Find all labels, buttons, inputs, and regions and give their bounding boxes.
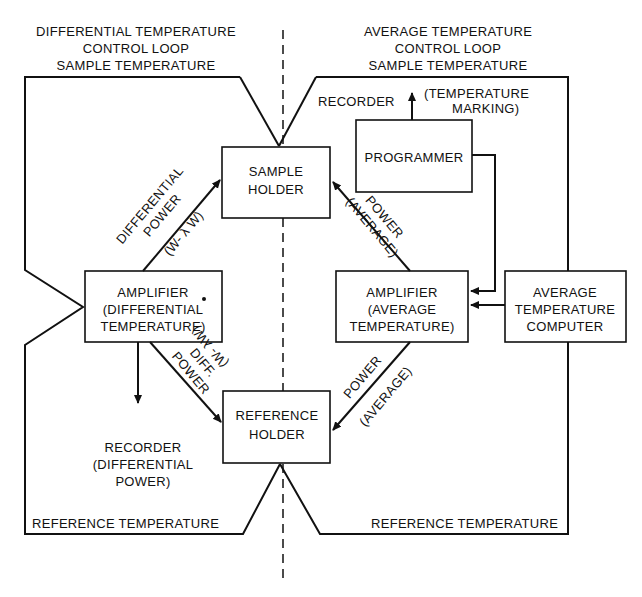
heading-average-loop: AVERAGE TEMPERATURE CONTROL LOOP SAMPLE …: [364, 24, 532, 73]
svg-text:TEMPERATURE): TEMPERATURE): [349, 319, 454, 334]
recorder-top-label: RECORDER: [318, 94, 395, 109]
svg-text:CONTROL LOOP: CONTROL LOOP: [395, 41, 501, 56]
svg-text:COMPUTER: COMPUTER: [527, 319, 604, 334]
sample-holder-box: SAMPLE HOLDER: [222, 147, 330, 218]
svg-text:SAMPLE: SAMPLE: [249, 164, 304, 179]
svg-text:PROGRAMMER: PROGRAMMER: [364, 150, 463, 165]
amplifier-average-box: AMPLIFIER (AVERAGE TEMPERATURE): [336, 271, 468, 342]
svg-text:(TEMPERATURE: (TEMPERATURE: [424, 86, 529, 101]
power-average-upper-label: POWER (AVERAGE): [343, 184, 414, 260]
differential-power-upper-label: DIFFERENTIAL POWER (W- λ W): [113, 163, 220, 275]
svg-text:AMPLIFIER: AMPLIFIER: [366, 285, 437, 300]
svg-text:POWER): POWER): [115, 474, 170, 489]
svg-text:SAMPLE TEMPERATURE: SAMPLE TEMPERATURE: [57, 58, 216, 73]
heading-differential-loop: DIFFERENTIAL TEMPERATURE CONTROL LOOP SA…: [36, 24, 236, 73]
svg-text:RECORDER: RECORDER: [105, 440, 182, 455]
svg-text:(DIFFERENTIAL: (DIFFERENTIAL: [93, 457, 194, 472]
svg-text:SAMPLE TEMPERATURE: SAMPLE TEMPERATURE: [369, 58, 528, 73]
reference-holder-box: REFERENCE HOLDER: [223, 391, 330, 463]
svg-text:(AVERAGE: (AVERAGE: [368, 302, 437, 317]
reference-temperature-left-label: REFERENCE TEMPERATURE: [32, 516, 219, 531]
right-loop-apex-top: [279, 77, 316, 146]
left-loop-apex-top: [240, 77, 279, 146]
svg-text:DIFFERENTIAL TEMPERATURE: DIFFERENTIAL TEMPERATURE: [36, 24, 236, 39]
arrow-programmer-to-amp-avg: [471, 155, 495, 291]
svg-text:HOLDER: HOLDER: [249, 427, 305, 442]
svg-text:TEMPERATURE: TEMPERATURE: [515, 302, 616, 317]
svg-text:(DIFFERENTIAL: (DIFFERENTIAL: [103, 302, 204, 317]
svg-text:CONTROL LOOP: CONTROL LOOP: [83, 41, 189, 56]
block-diagram: SAMPLE HOLDER REFERENCE HOLDER PROGRAMME…: [0, 0, 642, 597]
svg-text:REFERENCE: REFERENCE: [236, 408, 319, 423]
svg-text:AMPLIFIER: AMPLIFIER: [117, 285, 188, 300]
temperature-marking-label: (TEMPERATURE MARKING): [424, 86, 529, 116]
reference-temperature-right-label: REFERENCE TEMPERATURE: [371, 516, 558, 531]
svg-text:AVERAGE TEMPERATURE: AVERAGE TEMPERATURE: [364, 24, 532, 39]
svg-text:HOLDER: HOLDER: [248, 182, 304, 197]
svg-text:AVERAGE: AVERAGE: [533, 285, 597, 300]
average-temperature-computer-box: AVERAGE TEMPERATURE COMPUTER: [505, 271, 626, 342]
programmer-box: PROGRAMMER: [356, 120, 472, 192]
svg-text:MARKING): MARKING): [452, 101, 519, 116]
recorder-differential-label: RECORDER (DIFFERENTIAL POWER): [93, 440, 194, 489]
